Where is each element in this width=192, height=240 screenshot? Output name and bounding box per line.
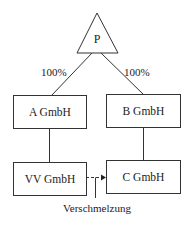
merger-label: Verschmelzung xyxy=(63,202,131,214)
node-c-label: C GmbH xyxy=(123,171,165,183)
node-b-label: B GmbH xyxy=(123,105,165,117)
edge-label-right-percent: 100% xyxy=(124,66,150,78)
node-b-gmbh: B GmbH xyxy=(106,94,181,128)
node-vv-label: VV GmbH xyxy=(25,173,76,185)
node-a-label: A GmbH xyxy=(29,106,71,118)
node-c-gmbh: C GmbH xyxy=(106,160,181,194)
parent-label: P xyxy=(94,33,101,45)
node-a-gmbh: A GmbH xyxy=(13,95,87,129)
edge-label-left-percent: 100% xyxy=(41,66,67,78)
node-vv-gmbh: VV GmbH xyxy=(13,162,87,196)
